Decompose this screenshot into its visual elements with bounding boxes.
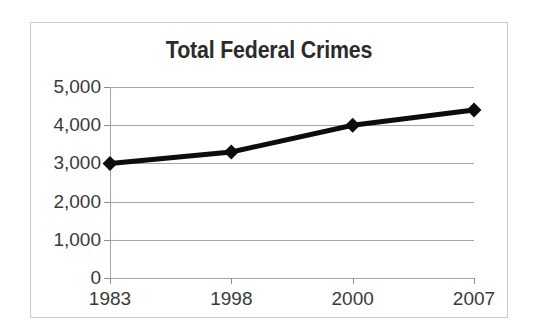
y-axis-label-4000: 4,000 <box>53 114 101 136</box>
chart-title: Total Federal Crimes <box>48 37 491 64</box>
x-axis-label-2007: 2007 <box>453 288 495 310</box>
x-tick-1998 <box>231 278 232 284</box>
y-axis-label-3000: 3,000 <box>53 152 101 174</box>
x-tick-2007 <box>474 278 475 284</box>
chart-frame: Total Federal Crimes 01,0002,0003,0004,0… <box>30 22 508 318</box>
data-point-2000 <box>345 118 360 133</box>
data-point-1998 <box>224 144 239 159</box>
x-axis-label-2000: 2000 <box>332 288 374 310</box>
x-tick-2000 <box>353 278 354 284</box>
data-point-2007 <box>467 102 482 117</box>
plot-area: 01,0002,0003,0004,0005,000 1983199820002… <box>110 87 474 278</box>
data-point-1983 <box>103 156 118 171</box>
series-polyline <box>110 110 474 163</box>
gridline-y-0 <box>110 278 474 279</box>
y-axis-label-5000: 5,000 <box>53 76 101 98</box>
y-axis-label-2000: 2,000 <box>53 191 101 213</box>
data-series-line <box>110 87 474 278</box>
x-tick-1983 <box>110 278 111 284</box>
x-axis-label-1998: 1998 <box>210 288 252 310</box>
y-axis-label-1000: 1,000 <box>53 229 101 251</box>
x-axis-label-1983: 1983 <box>89 288 131 310</box>
y-axis-label-0: 0 <box>90 267 101 289</box>
